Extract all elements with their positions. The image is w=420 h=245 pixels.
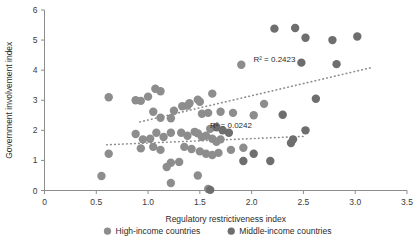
data-point <box>167 129 175 137</box>
x-axis-tick-label: 2.5 <box>298 197 310 207</box>
y-axis: 0123456 <box>33 5 45 196</box>
data-point <box>156 114 164 122</box>
data-point <box>312 95 320 103</box>
data-point <box>137 97 145 105</box>
y-axis-tick-label: 4 <box>33 65 38 75</box>
data-point <box>332 60 340 68</box>
data-point <box>97 172 105 180</box>
data-point <box>216 135 224 143</box>
data-point <box>291 24 299 32</box>
data-point <box>152 129 160 137</box>
data-point <box>187 145 195 153</box>
y-axis-tick-label: 6 <box>33 5 38 15</box>
y-axis-tick-label: 0 <box>33 186 38 196</box>
data-point <box>175 158 183 166</box>
data-point <box>229 109 237 117</box>
legend-label: Middle-income countries <box>239 226 331 236</box>
legend-marker <box>228 228 235 235</box>
data-point <box>297 58 305 66</box>
data-point <box>163 163 171 171</box>
data-point <box>250 111 258 119</box>
trendlines <box>107 68 371 145</box>
high-income-trendline-r-squared-label: R² = 0.2423 <box>253 55 296 64</box>
data-point <box>167 114 175 122</box>
y-axis-title: Government involvement index <box>4 41 14 159</box>
data-point <box>167 179 175 187</box>
data-point <box>196 98 204 106</box>
data-point <box>159 133 167 141</box>
x-axis-tick-label: 0.5 <box>90 197 102 207</box>
data-point <box>149 107 157 115</box>
data-point <box>185 99 193 107</box>
data-point <box>214 149 222 157</box>
data-point <box>204 109 212 117</box>
data-point <box>156 87 164 95</box>
data-point <box>216 107 224 115</box>
data-point <box>237 61 245 69</box>
chart-legend: High-income countriesMiddle-income count… <box>104 226 332 236</box>
middle-income-trendline-r-squared-label: R² = 0.0242 <box>210 121 253 130</box>
data-point <box>270 24 278 32</box>
data-point <box>170 107 178 115</box>
data-point <box>250 150 258 158</box>
data-point <box>301 126 309 134</box>
x-axis-tick-label: 1.5 <box>194 197 206 207</box>
data-points <box>97 24 361 194</box>
x-axis-tick-label: 1.0 <box>142 197 154 207</box>
x-axis: 00.51.01.52.02.53.03.5 <box>42 191 413 207</box>
data-point <box>260 100 268 108</box>
data-point <box>149 143 157 151</box>
data-point <box>208 89 216 97</box>
y-axis-tick-label: 2 <box>33 125 38 135</box>
y-axis-tick-label: 3 <box>33 95 38 105</box>
data-point <box>289 135 297 143</box>
data-point <box>194 171 202 179</box>
data-point <box>105 93 113 101</box>
legend-label: High-income countries <box>116 226 201 236</box>
data-point <box>328 36 336 44</box>
data-point <box>206 186 214 194</box>
y-axis-tick-label: 5 <box>33 35 38 45</box>
data-point <box>227 146 235 154</box>
data-point <box>239 144 247 152</box>
legend-marker <box>104 228 111 235</box>
data-point <box>183 132 191 140</box>
x-axis-tick-label: 3.0 <box>349 197 361 207</box>
data-point <box>105 150 113 158</box>
data-point <box>156 146 164 154</box>
x-axis-tick-label: 2.0 <box>246 197 258 207</box>
data-point <box>279 110 287 118</box>
data-point <box>180 143 188 151</box>
data-point <box>139 135 147 143</box>
y-axis-tick-label: 1 <box>33 155 38 165</box>
x-axis-tick-label: 3.5 <box>401 197 413 207</box>
data-point <box>353 32 361 40</box>
data-point <box>131 130 139 138</box>
data-point <box>146 135 154 143</box>
data-point <box>144 92 152 100</box>
scatter-chart: 0123456 00.51.01.52.02.53.03.5 R² = 0.24… <box>0 0 420 245</box>
x-axis-title: Regulatory restrictiveness index <box>166 214 287 224</box>
data-point <box>137 144 145 152</box>
data-point <box>239 157 247 165</box>
data-point <box>266 157 274 165</box>
x-axis-tick-label: 0 <box>42 197 47 207</box>
data-point <box>301 33 309 41</box>
chart-canvas: 0123456 00.51.01.52.02.53.03.5 R² = 0.24… <box>0 0 420 245</box>
